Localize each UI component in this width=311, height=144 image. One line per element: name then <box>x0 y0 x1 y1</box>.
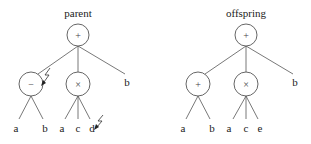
leaf-d: d <box>89 122 95 134</box>
leaf-e: e <box>258 122 263 134</box>
operator-label: + <box>75 30 81 41</box>
operator-label: + <box>243 30 249 41</box>
operator-label: − <box>28 79 34 90</box>
edge <box>19 96 31 119</box>
offspring-title: offspring <box>226 7 267 19</box>
edge <box>31 96 43 119</box>
leaf-b: b <box>124 76 130 88</box>
operator-label: × <box>75 79 81 90</box>
leaf-a: a <box>14 122 19 134</box>
parent-title: parent <box>64 7 91 19</box>
edge <box>198 96 210 119</box>
leaf-a: a <box>181 122 186 134</box>
leaf-a: a <box>227 122 232 134</box>
edge <box>78 46 125 74</box>
operator-label: + <box>195 79 201 90</box>
leaf-c: c <box>244 122 249 134</box>
edge <box>78 96 90 119</box>
offspring-tree: offspring + + × b a b a c e <box>181 7 299 134</box>
edge <box>65 96 78 119</box>
parent-tree: parent + − × b a b <box>14 7 131 134</box>
leaf-b: b <box>42 122 48 134</box>
edge <box>38 46 78 74</box>
leaf-b: b <box>209 122 215 134</box>
lightning-bolt-icon <box>94 115 103 130</box>
offspring-times-node: × <box>234 72 258 96</box>
edge <box>205 46 246 74</box>
leaf-c: c <box>76 122 81 134</box>
leaf-a: a <box>60 122 65 134</box>
mutation-diagram: parent + − × b a b <box>0 0 311 144</box>
parent-minus-node: − <box>19 72 43 96</box>
edge <box>246 96 258 119</box>
offspring-root-node: + <box>235 24 257 46</box>
edge <box>246 46 293 74</box>
offspring-plus-node: + <box>186 72 210 96</box>
leaf-b: b <box>292 76 298 88</box>
parent-root-node: + <box>67 24 89 46</box>
parent-times-node: × <box>66 72 90 96</box>
edge <box>233 96 246 119</box>
edge <box>186 96 198 119</box>
operator-label: × <box>243 79 249 90</box>
